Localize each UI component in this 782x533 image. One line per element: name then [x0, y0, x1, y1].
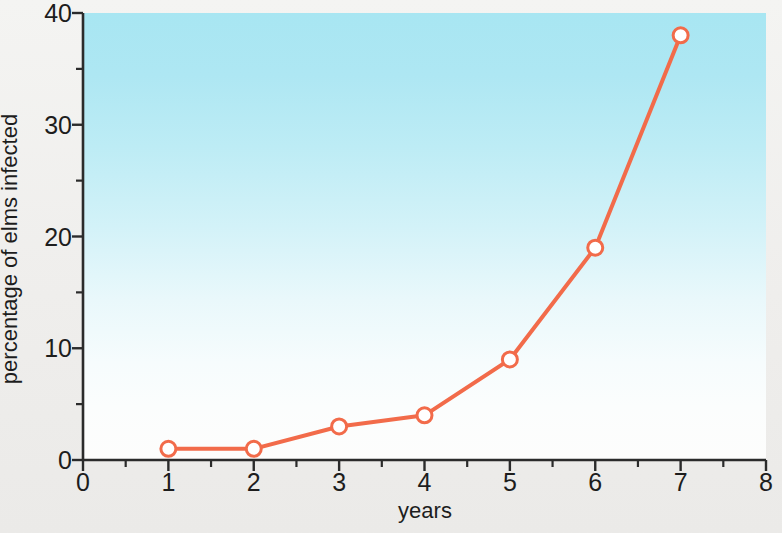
y-tick-label: 10	[44, 336, 72, 361]
x-axis-title: years	[398, 498, 452, 524]
x-tick-label: 1	[161, 470, 175, 495]
data-point-markers	[161, 28, 688, 456]
x-tick-label: 0	[76, 470, 90, 495]
data-point-marker	[673, 28, 688, 43]
data-point-marker	[588, 240, 603, 255]
x-tick-label: 8	[759, 470, 773, 495]
data-point-marker	[502, 352, 517, 367]
y-axis-title: percentage of elms infected	[0, 114, 23, 384]
data-point-marker	[417, 408, 432, 423]
data-point-marker	[161, 441, 176, 456]
y-tick-label: 40	[44, 1, 72, 26]
x-tick-label: 4	[418, 470, 432, 495]
chart-canvas	[0, 0, 782, 533]
y-tick-label: 0	[58, 448, 72, 473]
x-tick-label: 2	[247, 470, 261, 495]
chart-figure: 012345678 010203040 years percentage of …	[0, 0, 782, 533]
x-tick-label: 7	[674, 470, 688, 495]
x-tick-label: 3	[332, 470, 346, 495]
x-tick-label: 6	[588, 470, 602, 495]
y-tick-label: 20	[44, 224, 72, 249]
data-series-line	[168, 35, 680, 448]
data-point-marker	[332, 419, 347, 434]
data-point-marker	[246, 441, 261, 456]
x-tick-label: 5	[503, 470, 517, 495]
y-tick-label: 30	[44, 112, 72, 137]
